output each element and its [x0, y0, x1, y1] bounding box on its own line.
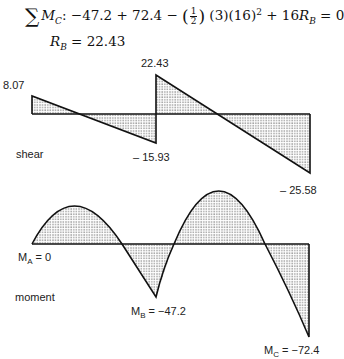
moment-c-label: MC = −72.4 — [264, 344, 319, 359]
moment-title: moment — [15, 291, 55, 303]
shear-jump-top-value: 22.43 — [141, 57, 169, 69]
shear-jump-bottom-value: – 15.93 — [133, 151, 170, 163]
shear-title: shear — [16, 148, 44, 160]
shear-end-value: – 25.58 — [280, 184, 317, 196]
moment-a-label: MA = 0 — [18, 251, 51, 266]
moment-b-label: MB = −47.2 — [131, 305, 186, 320]
shear-diagram — [32, 75, 310, 173]
shear-start-value: 8.07 — [3, 79, 24, 91]
